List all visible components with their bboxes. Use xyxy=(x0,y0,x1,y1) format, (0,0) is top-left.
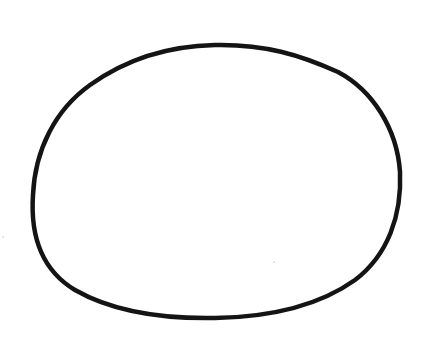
paper-speck xyxy=(2,236,4,238)
drawing-canvas xyxy=(0,0,422,337)
paper-speck xyxy=(273,261,275,263)
paper-background xyxy=(0,0,422,337)
